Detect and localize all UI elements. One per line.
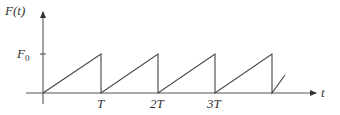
tick-label-3T: 3T: [206, 96, 222, 111]
tick-label-T: T: [97, 96, 105, 111]
y-axis-label: F(t): [4, 3, 25, 18]
sawtooth-diagram: F(t) t F0 T 2T 3T: [0, 0, 340, 115]
sawtooth-waveform: [43, 54, 285, 93]
f0-label: F0: [16, 46, 30, 63]
x-axis-label: t: [321, 85, 325, 100]
tick-label-2T: 2T: [150, 96, 165, 111]
